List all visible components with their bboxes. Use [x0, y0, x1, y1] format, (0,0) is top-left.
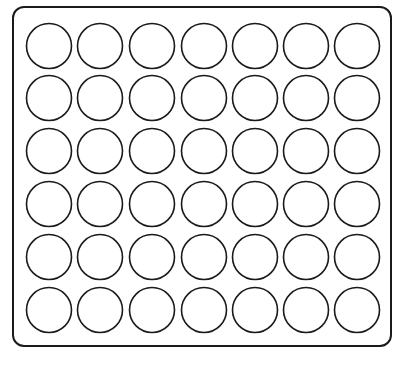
board-cell-r5-c4[interactable] — [182, 235, 227, 280]
board-cell-r3-c4[interactable] — [182, 129, 227, 174]
board-cell-r2-c6[interactable] — [284, 76, 329, 121]
board-cell-r2-c2[interactable] — [78, 76, 123, 121]
board-cell-r3-c1[interactable] — [27, 129, 72, 174]
board-cell-r6-c3[interactable] — [130, 288, 175, 333]
board-cell-r1-c4[interactable] — [182, 24, 227, 69]
board-cell-r1-c5[interactable] — [233, 24, 278, 69]
board-cell-r4-c1[interactable] — [27, 182, 72, 227]
board-cell-r6-c5[interactable] — [233, 288, 278, 333]
board-cell-r1-c1[interactable] — [27, 24, 72, 69]
board-cell-r2-c4[interactable] — [182, 76, 227, 121]
board-cell-r1-c3[interactable] — [130, 24, 175, 69]
board-cell-r6-c4[interactable] — [182, 288, 227, 333]
board-cell-r4-c6[interactable] — [284, 182, 329, 227]
board-cell-r4-c4[interactable] — [182, 182, 227, 227]
board-cell-r1-c6[interactable] — [284, 24, 329, 69]
board-cell-r4-c7[interactable] — [335, 182, 380, 227]
board-cell-r5-c7[interactable] — [335, 235, 380, 280]
board-cell-r6-c1[interactable] — [27, 288, 72, 333]
board-cell-r4-c2[interactable] — [78, 182, 123, 227]
board-cell-r4-c5[interactable] — [233, 182, 278, 227]
board-cell-r3-c7[interactable] — [335, 129, 380, 174]
board-cell-r5-c1[interactable] — [27, 235, 72, 280]
board-cell-r2-c5[interactable] — [233, 76, 278, 121]
board-cell-r1-c2[interactable] — [78, 24, 123, 69]
board-cell-r3-c5[interactable] — [233, 129, 278, 174]
board-cell-r4-c3[interactable] — [130, 182, 175, 227]
board-cell-r2-c1[interactable] — [27, 76, 72, 121]
board-cell-r5-c5[interactable] — [233, 235, 278, 280]
board-cell-r3-c3[interactable] — [130, 129, 175, 174]
board-cell-r5-c2[interactable] — [78, 235, 123, 280]
board-cell-r2-c3[interactable] — [130, 76, 175, 121]
board-cell-r5-c3[interactable] — [130, 235, 175, 280]
board-cell-r2-c7[interactable] — [335, 76, 380, 121]
board-cell-r6-c2[interactable] — [78, 288, 123, 333]
board-cell-r6-c6[interactable] — [284, 288, 329, 333]
circle-grid — [0, 0, 415, 365]
board-cell-r5-c6[interactable] — [284, 235, 329, 280]
board-cell-r1-c7[interactable] — [335, 24, 380, 69]
board-cell-r6-c7[interactable] — [335, 288, 380, 333]
board-cell-r3-c2[interactable] — [78, 129, 123, 174]
board-cell-r3-c6[interactable] — [284, 129, 329, 174]
